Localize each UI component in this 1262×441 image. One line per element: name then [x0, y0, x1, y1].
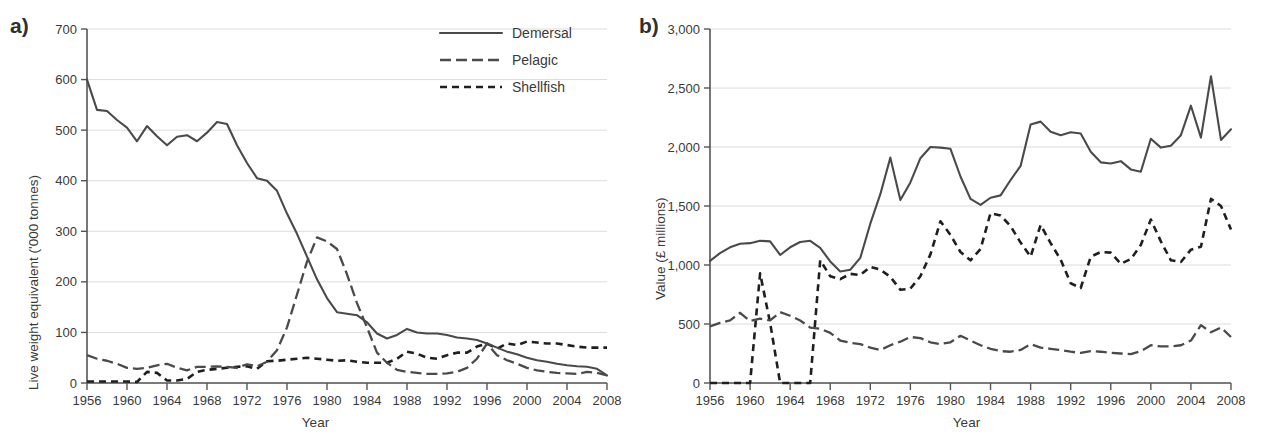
y-axis-tick-label: 500	[55, 123, 77, 138]
panel-a-x-axis-title: Year	[0, 415, 631, 430]
x-axis-tick-label: 1992	[1056, 393, 1085, 408]
x-axis-tick-label: 1984	[976, 393, 1005, 408]
series-line-shellfish	[710, 199, 1231, 383]
y-axis-tick-label: 2,000	[667, 140, 700, 155]
x-axis-tick-label: 1956	[696, 393, 725, 408]
series-line-pelagic	[710, 312, 1231, 354]
x-axis-tick-label: 1996	[473, 393, 502, 408]
panel-a-label: a)	[10, 14, 29, 38]
x-axis-tick-label: 1980	[313, 393, 342, 408]
y-axis-tick-label: 0	[70, 376, 77, 391]
x-axis-tick-label: 2000	[513, 393, 542, 408]
legend-label-shellfish: Shellfish	[512, 79, 565, 95]
x-axis-tick-label: 1956	[73, 393, 102, 408]
x-axis-tick-label: 1960	[113, 393, 142, 408]
x-axis-tick-label: 2008	[593, 393, 622, 408]
x-axis-tick-label: 1988	[393, 393, 422, 408]
series-line-demersal	[87, 80, 607, 376]
x-axis-tick-label: 1968	[193, 393, 222, 408]
series-line-shellfish	[87, 342, 607, 382]
x-axis-tick-label: 1968	[816, 393, 845, 408]
y-axis-tick-label: 1,000	[667, 258, 700, 273]
y-axis-tick-label: 3,000	[667, 22, 700, 37]
chart-panel-a: a) Live weight equivalent ('000 tonnes) …	[0, 0, 631, 441]
x-axis-tick-label: 2004	[1176, 393, 1205, 408]
y-axis-tick-label: 200	[55, 274, 77, 289]
panel-b-y-axis-title: Value (£ millions)	[653, 197, 668, 300]
x-axis-tick-label: 1984	[353, 393, 382, 408]
y-axis-tick-label: 0	[693, 376, 700, 391]
series-line-pelagic	[87, 237, 607, 375]
y-axis-tick-label: 100	[55, 325, 77, 340]
x-axis-tick-label: 2000	[1136, 393, 1165, 408]
x-axis-tick-label: 1964	[153, 393, 182, 408]
x-axis-tick-label: 1996	[1096, 393, 1125, 408]
x-axis-tick-label: 1992	[433, 393, 462, 408]
x-axis-tick-label: 1976	[896, 393, 925, 408]
panel-a-y-axis-title: Live weight equivalent ('000 tonnes)	[26, 175, 41, 390]
panel-b-x-axis-title: Year	[671, 415, 1262, 430]
panel-a-plot: 0100200300400500600700195619601964196819…	[0, 0, 631, 441]
x-axis-tick-label: 1964	[776, 393, 805, 408]
y-axis-tick-label: 700	[55, 22, 77, 37]
figure-fisheries-landings: a) Live weight equivalent ('000 tonnes) …	[0, 0, 1262, 441]
legend-label-demersal: Demersal	[512, 25, 572, 41]
x-axis-tick-label: 1972	[233, 393, 262, 408]
y-axis-tick-label: 400	[55, 173, 77, 188]
y-axis-tick-label: 300	[55, 224, 77, 239]
x-axis-tick-label: 2004	[553, 393, 582, 408]
x-axis-tick-label: 1960	[736, 393, 765, 408]
x-axis-tick-label: 1972	[856, 393, 885, 408]
y-axis-tick-label: 1,500	[667, 199, 700, 214]
x-axis-tick-label: 1988	[1016, 393, 1045, 408]
y-axis-tick-label: 600	[55, 72, 77, 87]
series-line-demersal	[710, 76, 1231, 271]
chart-panel-b: b) Value (£ millions) Year 05001,0001,50…	[631, 0, 1262, 441]
x-axis-tick-label: 1980	[936, 393, 965, 408]
legend-label-pelagic: Pelagic	[512, 52, 558, 68]
x-axis-tick-label: 2008	[1217, 393, 1246, 408]
y-axis-tick-label: 2,500	[667, 81, 700, 96]
panel-b-plot: 05001,0001,5002,0002,5003,00019561960196…	[631, 0, 1262, 441]
y-axis-tick-label: 500	[678, 317, 700, 332]
panel-b-label: b)	[639, 14, 659, 38]
x-axis-tick-label: 1976	[273, 393, 302, 408]
